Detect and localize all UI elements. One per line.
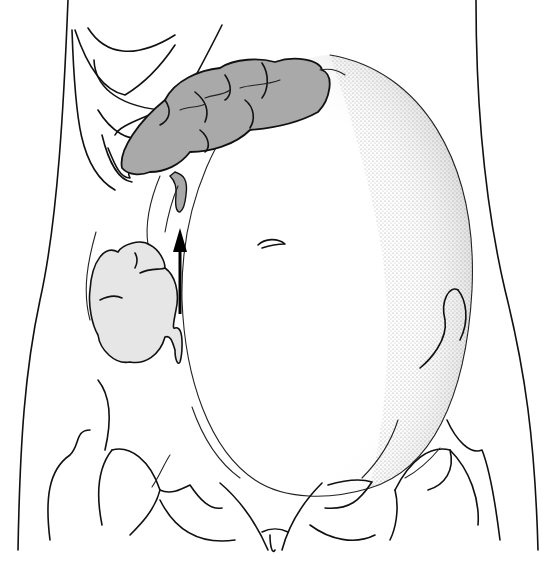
anatomy-illustration xyxy=(0,0,560,570)
illustration-svg xyxy=(0,0,560,570)
normal-cecum-position xyxy=(89,242,182,363)
displaced-appendix xyxy=(170,172,187,212)
